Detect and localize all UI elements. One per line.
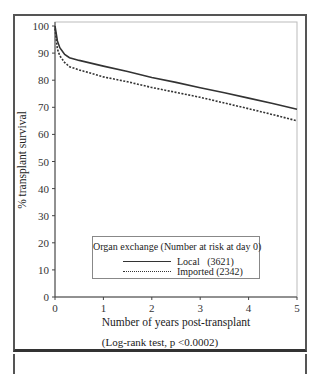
- y-axis-title: % transplant survival: [16, 111, 29, 209]
- log-rank-footnote: (Log-rank test, p <0.0002): [13, 336, 307, 348]
- y-tick-label: 60: [38, 128, 50, 140]
- y-tick-label: 50: [38, 156, 50, 168]
- legend-label-imported: Imported (2342): [177, 266, 243, 277]
- y-tick-label: 100: [33, 20, 50, 32]
- y-tick-label: 40: [38, 183, 50, 195]
- x-tick-label: 0: [52, 302, 58, 314]
- y-tick-label: 90: [38, 47, 50, 59]
- x-tick-label: 2: [149, 302, 155, 314]
- x-tick-label: 3: [197, 302, 203, 314]
- y-tick-label: 20: [38, 237, 50, 249]
- legend-title: Organ exchange (Number at risk at day 0): [93, 241, 259, 252]
- solid-line-swatch-icon: [123, 261, 171, 262]
- y-tick-label: 30: [38, 210, 50, 222]
- y-tick-label: 10: [38, 264, 50, 276]
- legend-item-imported: Imported (2342): [123, 265, 243, 277]
- x-ticks: 012345: [52, 297, 300, 314]
- legend: Organ exchange (Number at risk at day 0)…: [92, 236, 260, 279]
- y-tick-label: 80: [38, 74, 50, 86]
- y-tick-label: 70: [38, 101, 50, 113]
- imported-survival-curve: [55, 29, 297, 121]
- y-tick-label: 0: [44, 291, 50, 303]
- x-tick-label: 5: [294, 302, 300, 314]
- x-tick-label: 1: [101, 302, 107, 314]
- x-axis-title: Number of years post-transplant: [55, 316, 297, 328]
- dashed-line-swatch-icon: [123, 271, 171, 272]
- y-ticks: 0102030405060708090100: [33, 20, 56, 303]
- local-survival-curve: [55, 26, 297, 109]
- x-tick-label: 4: [246, 302, 252, 314]
